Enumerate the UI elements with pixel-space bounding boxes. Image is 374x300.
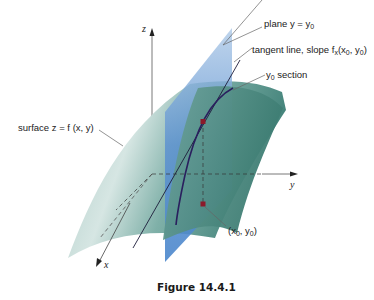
z-arrow-icon bbox=[150, 28, 155, 36]
x-axis-label: x bbox=[103, 259, 109, 270]
y-arrow-icon bbox=[290, 172, 298, 177]
y0-section-label: y0 section bbox=[266, 69, 307, 81]
surface-point bbox=[201, 119, 206, 124]
x-arrow-icon bbox=[96, 258, 102, 267]
z-axis-label: z bbox=[141, 23, 146, 34]
figure-14-4-1: z y x plan bbox=[0, 0, 374, 300]
y-axis: y bbox=[262, 172, 298, 191]
tangent-label: tangent line, slope fx(x0, y0) bbox=[252, 44, 367, 56]
plane-label: plane y = y0 bbox=[264, 18, 314, 30]
y-axis-label: y bbox=[289, 179, 295, 190]
figure-caption: Figure 14.4.1 bbox=[157, 281, 236, 293]
point-label: (x0, y0) bbox=[228, 225, 257, 237]
surface-label: surface z = f (x, y) bbox=[18, 122, 94, 133]
base-point bbox=[201, 202, 206, 207]
